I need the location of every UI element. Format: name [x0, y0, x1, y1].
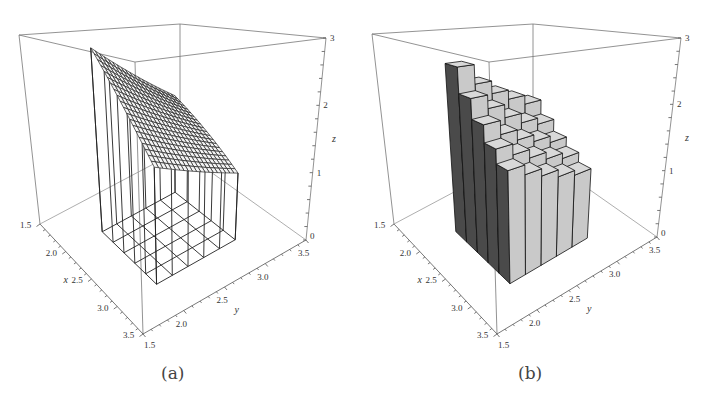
y-tick-label: 1.5	[498, 340, 510, 350]
y-tick-label: 2.0	[529, 318, 541, 328]
panel-a-caption: (a)	[161, 363, 184, 383]
z-tick-label: 2	[323, 100, 328, 110]
y-tick-label: 1.5	[144, 340, 156, 350]
x-tick-label: 2.0	[400, 248, 412, 258]
y-tick-label: 2.5	[569, 294, 581, 304]
x-axis-label: x	[417, 274, 423, 285]
y-tick-label: 3.5	[649, 245, 661, 255]
figure-canvas: 1.52.02.53.03.51.52.02.53.03.50123xyz 1.…	[0, 0, 704, 399]
z-tick-label: 0	[310, 231, 315, 241]
x-tick-label: 2.5	[72, 275, 84, 285]
z-axis-label: z	[684, 132, 689, 143]
x-tick-label: 3.5	[477, 330, 489, 340]
x-tick-label: 3.0	[451, 303, 463, 313]
y-tick-label: 2.0	[176, 319, 188, 329]
panel-a-surface-plot: 1.52.02.53.03.51.52.02.53.03.50123xyz	[19, 24, 336, 350]
z-tick-label: 0	[661, 228, 666, 238]
z-tick-label: 3	[330, 33, 335, 43]
bar-face	[541, 170, 558, 266]
y-tick-label: 3.5	[298, 248, 310, 258]
panel-b-bar-plot: 1.52.02.53.03.51.52.02.53.03.50123xyz	[372, 24, 690, 350]
panel-b-caption: (b)	[518, 363, 542, 383]
x-axis-label: x	[63, 274, 69, 285]
y-tick-label: 3.0	[257, 272, 269, 282]
x-tick-label: 2.0	[46, 248, 58, 258]
x-tick-label: 2.5	[426, 275, 438, 285]
z-axis-label: z	[331, 133, 336, 144]
bar-face	[508, 165, 525, 284]
z-tick-label: 3	[685, 33, 690, 43]
bar-face	[525, 169, 542, 275]
x-tick-label: 3.0	[97, 303, 109, 313]
z-tick-label: 1	[669, 166, 674, 176]
y-axis-label: y	[586, 303, 592, 314]
x-tick-label: 3.5	[123, 330, 135, 340]
bar-face	[556, 170, 574, 256]
y-tick-label: 3.0	[609, 269, 621, 279]
x-tick-label: 1.5	[374, 220, 386, 230]
y-tick-label: 2.5	[217, 295, 229, 305]
z-tick-label: 1	[317, 168, 322, 178]
x-tick-label: 1.5	[20, 220, 32, 230]
y-axis-label: y	[234, 304, 240, 315]
z-tick-label: 2	[677, 99, 682, 109]
